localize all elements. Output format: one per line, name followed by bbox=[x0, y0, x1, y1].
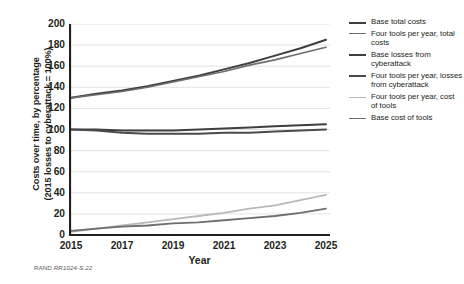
x-tick-label: 2021 bbox=[204, 240, 244, 251]
legend-item[interactable]: Base losses from cyberattack bbox=[349, 50, 463, 69]
legend-label: Four tools per year, losses from cyberat… bbox=[371, 71, 463, 90]
y-tick-label: 140 bbox=[39, 82, 65, 92]
y-tick-label: 0 bbox=[39, 230, 65, 240]
y-tick-label: 180 bbox=[39, 40, 65, 50]
series-line-4 bbox=[71, 195, 326, 232]
y-tick-label: 160 bbox=[39, 61, 65, 71]
legend-swatch-icon bbox=[349, 17, 366, 26]
y-axis-tick-labels: 020406080100120140160180200 bbox=[36, 24, 65, 236]
y-tick-label: 60 bbox=[39, 167, 65, 177]
y-tick-label: 80 bbox=[39, 146, 65, 156]
x-tick-label: 2023 bbox=[255, 240, 295, 251]
series-line-1 bbox=[71, 47, 326, 98]
figure-container: Costs over time, by percentage (2015 los… bbox=[0, 0, 464, 284]
legend-label: Four tools per year, cost of tools bbox=[371, 92, 463, 111]
y-tick-label: 120 bbox=[39, 103, 65, 113]
y-tick-label: 200 bbox=[39, 19, 65, 29]
gridlines bbox=[70, 24, 330, 214]
series-lines bbox=[71, 40, 326, 232]
y-tick-label: 20 bbox=[39, 209, 65, 219]
legend-label: Base cost of tools bbox=[371, 113, 432, 122]
legend-swatch-icon bbox=[349, 50, 366, 59]
chart-svg bbox=[69, 24, 330, 236]
y-axis-title: Costs over time, by percentage (2015 los… bbox=[0, 0, 34, 248]
series-line-0 bbox=[71, 40, 326, 98]
legend-label: Four tools per year, total costs bbox=[371, 29, 463, 48]
legend-swatch-icon bbox=[349, 29, 366, 38]
legend-item[interactable]: Four tools per year, losses from cyberat… bbox=[349, 71, 463, 90]
legend-swatch-icon bbox=[349, 113, 366, 122]
x-axis-title: Year bbox=[69, 255, 330, 266]
x-tick-label: 2019 bbox=[153, 240, 193, 251]
plot-area bbox=[69, 24, 330, 236]
legend-item[interactable]: Base total costs bbox=[349, 17, 463, 26]
x-tick-label: 2025 bbox=[306, 240, 346, 251]
legend-item[interactable]: Four tools per year, cost of tools bbox=[349, 92, 463, 111]
legend-item[interactable]: Four tools per year, total costs bbox=[349, 29, 463, 48]
chart-legend: Base total costsFour tools per year, tot… bbox=[349, 17, 463, 125]
y-tick-label: 100 bbox=[39, 125, 65, 135]
credit-organization: RAND bbox=[34, 264, 52, 271]
legend-swatch-icon bbox=[349, 71, 366, 80]
x-tick-label: 2015 bbox=[51, 240, 91, 251]
legend-label: Base losses from cyberattack bbox=[371, 50, 463, 69]
x-axis-tick-labels: 201520172019202120232025 bbox=[69, 240, 330, 254]
x-tick-label: 2017 bbox=[102, 240, 142, 251]
legend-label: Base total costs bbox=[371, 17, 426, 26]
legend-item[interactable]: Base cost of tools bbox=[349, 113, 463, 122]
series-line-5 bbox=[71, 209, 326, 231]
y-tick-label: 40 bbox=[39, 188, 65, 198]
credit-identifier: RR1024-S.22 bbox=[54, 264, 93, 271]
figure-credit: RAND RR1024-S.22 bbox=[34, 264, 92, 271]
legend-swatch-icon bbox=[349, 92, 366, 101]
